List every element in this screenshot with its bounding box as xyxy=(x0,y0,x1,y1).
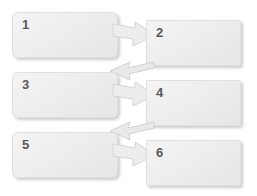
flow-box-4-label: 4 xyxy=(156,86,163,99)
flow-box-4[interactable]: 4 xyxy=(146,80,241,126)
flow-box-1-label: 1 xyxy=(22,18,29,31)
flow-box-2-label: 2 xyxy=(156,26,163,39)
flow-box-2[interactable]: 2 xyxy=(146,20,241,66)
flow-box-6-label: 6 xyxy=(156,146,163,159)
flow-box-6[interactable]: 6 xyxy=(146,140,241,186)
flow-box-1[interactable]: 1 xyxy=(12,12,118,58)
process-flow-diagram: 1 2 3 4 5 xyxy=(0,0,257,196)
flow-box-5-label: 5 xyxy=(22,138,29,151)
flow-box-5[interactable]: 5 xyxy=(12,132,118,178)
flow-box-3[interactable]: 3 xyxy=(12,72,118,118)
flow-box-3-label: 3 xyxy=(22,78,29,91)
